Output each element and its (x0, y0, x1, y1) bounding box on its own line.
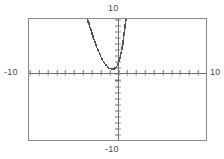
curve-point (123, 33, 125, 35)
curve-point (125, 22, 127, 24)
y-max-label: 10 (108, 4, 118, 13)
curve-point (90, 29, 92, 31)
curve-point (108, 67, 110, 69)
curve-point (98, 51, 100, 53)
curve-point (100, 55, 102, 57)
curve-point (99, 52, 101, 54)
curve-point (88, 22, 90, 24)
curve-point (123, 39, 125, 41)
curve-point (124, 25, 126, 27)
curve-point (123, 32, 125, 34)
curve-point (87, 21, 89, 23)
curve-point (97, 49, 99, 51)
curve-point (87, 20, 89, 22)
curve-point (125, 21, 127, 23)
curve-point (99, 54, 101, 56)
curve-point (88, 22, 90, 24)
curve-point (101, 57, 103, 59)
x-max-label: 10 (210, 68, 220, 77)
curve-point (125, 21, 127, 23)
curve-point (123, 37, 125, 39)
curve-point (123, 35, 125, 37)
curve-point (122, 45, 124, 47)
curve-point (124, 25, 126, 27)
curve-point (91, 32, 93, 34)
curve-point (108, 67, 110, 69)
curve-point (123, 33, 125, 35)
curve-point (93, 37, 95, 39)
curve-point (93, 39, 95, 41)
curve-point (124, 28, 126, 30)
curve-point (103, 61, 105, 63)
curve-point (91, 31, 93, 33)
curve-point (92, 35, 94, 37)
plot-frame (28, 18, 207, 141)
curve-point (123, 36, 125, 38)
curve-point (97, 48, 99, 50)
curve-point (91, 34, 93, 36)
curve-point (93, 39, 95, 41)
curve-point (104, 63, 106, 65)
curve-point (96, 46, 98, 48)
curve-point (124, 24, 126, 26)
curve-point (95, 42, 97, 44)
y-axis-tick-marks (115, 19, 118, 140)
curve-point (124, 29, 126, 31)
curve-point (88, 24, 90, 26)
curve-point (94, 41, 96, 43)
curve-point (95, 42, 97, 44)
curve-point (121, 49, 123, 51)
curve-point (94, 40, 96, 42)
curve-point (107, 66, 109, 68)
calculator-screen: 10 -10 -10 10 (0, 0, 224, 159)
curve-point (124, 31, 126, 33)
curve-point (125, 18, 127, 20)
curve-point (103, 61, 105, 63)
curve-point (122, 43, 124, 45)
curve-point (122, 45, 124, 47)
curve-point (104, 63, 106, 65)
curve-point (87, 18, 89, 20)
curve-point (122, 40, 124, 42)
curve-point (101, 58, 103, 60)
curve-point (89, 27, 91, 29)
curve-point (123, 37, 125, 39)
curve-point (121, 46, 123, 48)
curve-point (121, 47, 123, 49)
curve-point (89, 27, 91, 29)
curve-point (95, 45, 97, 47)
curve-point (103, 62, 105, 64)
curve-point (124, 26, 126, 28)
curve-point (125, 20, 127, 22)
curve-point (107, 66, 109, 68)
curve-point (105, 64, 107, 66)
y-axis-tick-marks-right (119, 19, 121, 140)
curve-point (102, 59, 104, 61)
curve-point (89, 25, 91, 27)
curve-point (101, 58, 103, 60)
y-min-label: -10 (105, 145, 119, 154)
curve-point (90, 28, 92, 30)
curve-point (97, 49, 99, 51)
curve-point (95, 44, 97, 46)
curve-point (105, 64, 107, 66)
curve-point (100, 55, 102, 57)
curve-point (121, 49, 123, 51)
curve-point (99, 52, 101, 54)
curve-point (122, 41, 124, 43)
curve-point (91, 31, 93, 33)
curve-point (96, 46, 98, 48)
curve-point (92, 36, 94, 38)
curve-point (92, 35, 94, 37)
curve-point (122, 41, 124, 43)
curve-point (124, 29, 126, 31)
x-min-label: -10 (4, 68, 18, 77)
